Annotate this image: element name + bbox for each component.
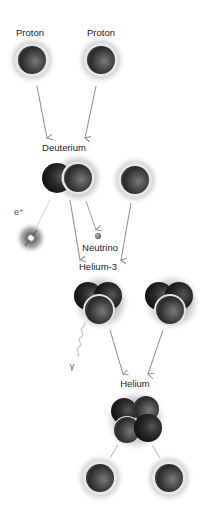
label-gamma: γ [70,362,75,371]
proton-out-2-icon [144,453,194,503]
gamma-ray-icon [77,322,85,356]
arrow-deuterium-to-neutrino [86,201,96,230]
label-helium-3: Helium-3 [79,262,117,272]
arrow-helium3a-to-helium [110,330,123,374]
label-helium: Helium [120,379,150,389]
helium3-2-icon [142,272,202,332]
proton-1-icon [7,35,57,85]
arrow-proton3-to-helium3 [121,203,131,260]
arrow-proton2-to-deuterium [85,86,96,138]
proton-3-icon [110,155,160,205]
label-deuterium: Deuterium [42,143,86,153]
label-positron: e⁺ [14,208,24,217]
arrow-deuterium-to-helium3 [70,200,80,260]
helium-icon [104,388,168,452]
positron-icon [15,222,47,254]
proton-out-1-icon [75,453,125,503]
label-proton-2: Proton [87,28,115,38]
label-neutrino: Neutrino [82,243,118,253]
arrow-proton1-to-deuterium [37,86,47,138]
arrow-helium3b-to-helium [148,330,163,374]
proton-2-icon [76,35,126,85]
neutrino-icon [95,233,101,239]
label-proton-1: Proton [16,28,44,38]
helium3-1-icon [71,272,131,332]
deuterium-icon [42,152,104,204]
